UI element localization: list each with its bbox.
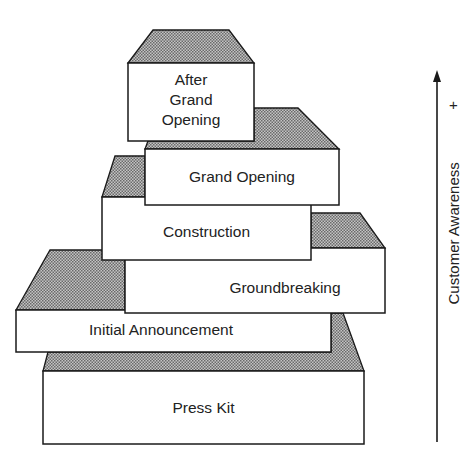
label-groundbreaking: Groundbreaking bbox=[185, 278, 385, 298]
label-line: Opening bbox=[128, 110, 254, 130]
label-grand-opening: Grand Opening bbox=[145, 167, 339, 187]
label-line: After bbox=[128, 70, 254, 90]
label-construction: Construction bbox=[102, 222, 311, 242]
customer-awareness-axis bbox=[433, 70, 441, 442]
label-press-kit: Press Kit bbox=[43, 398, 364, 418]
label-after-grand-opening: After Grand Opening bbox=[128, 70, 254, 130]
customer-awareness-diagram: After Grand Opening Grand Opening Constr… bbox=[0, 0, 473, 460]
axis-label-customer-awareness: Customer Awareness bbox=[445, 165, 462, 305]
axis-high-marker: + bbox=[449, 96, 458, 113]
arrow-up-icon bbox=[433, 70, 441, 82]
label-line: Grand bbox=[128, 90, 254, 110]
label-initial-announcement: Initial Announcement bbox=[16, 320, 306, 340]
